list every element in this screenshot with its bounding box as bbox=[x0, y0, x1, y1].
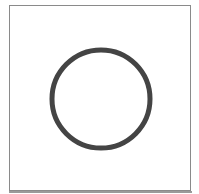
circle-shape bbox=[52, 50, 150, 148]
circle-outline-icon bbox=[0, 0, 199, 194]
canvas bbox=[0, 0, 199, 194]
